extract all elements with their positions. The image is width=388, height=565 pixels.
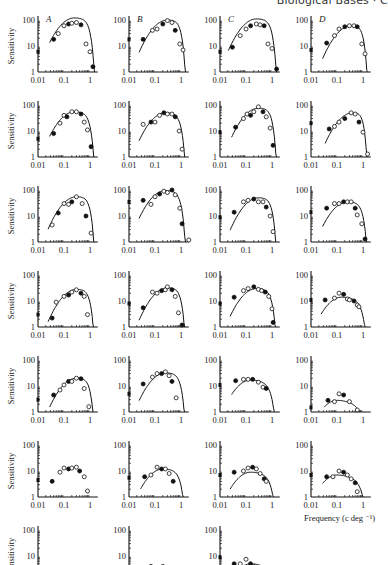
panel-B-5: 1001010.010.11 (113, 355, 189, 425)
data-point-filled (325, 206, 329, 210)
y-tick-label: 10 (209, 211, 218, 221)
y-axis-label: Sensitivity (6, 112, 16, 149)
x-tick-label: 0.1 (241, 415, 252, 425)
y-tick-label: 10 (209, 126, 218, 136)
x-tick-label: 1 (179, 75, 183, 85)
data-point-open (150, 375, 154, 379)
y-tick-label: 10 (118, 41, 127, 51)
data-point-open (153, 120, 157, 124)
data-point-filled (79, 291, 83, 295)
data-point-open (177, 129, 181, 133)
panel-C-5: 1001010.010.11 (204, 355, 280, 425)
data-point-filled (355, 25, 359, 29)
x-tick-label: 0.1 (332, 415, 343, 425)
y-tick-label: 10 (300, 296, 309, 306)
data-point-filled (141, 37, 145, 41)
x-tick-label: 1 (88, 500, 92, 510)
y-tick-label: 100 (22, 185, 35, 195)
data-point-open (163, 467, 167, 471)
data-point-filled (171, 479, 175, 483)
panel-B-7: 1001010.010.11Frequency (c deg ⁻¹) (113, 525, 193, 565)
data-point-filled (52, 37, 56, 41)
fitted-curve (139, 20, 185, 72)
x-tick-label: 0.1 (241, 75, 252, 85)
data-point-filled (323, 298, 327, 302)
data-point-open (355, 490, 359, 494)
x-tick-label: 0.01 (213, 160, 228, 170)
data-point-open (268, 214, 272, 218)
y-tick-label: 10 (209, 551, 218, 561)
data-point-filled (234, 125, 238, 129)
y-tick-label: 10 (118, 381, 127, 391)
x-tick-label: 0.1 (59, 160, 70, 170)
y-tick-label: 100 (204, 440, 217, 450)
data-point-filled (232, 210, 236, 214)
data-point-open (337, 291, 341, 295)
y-tick-label: 100 (113, 185, 126, 195)
data-point-open (85, 128, 89, 132)
data-point-open (360, 42, 364, 46)
data-point-open (70, 466, 74, 470)
data-point-open (337, 469, 341, 473)
data-point-filled (271, 143, 275, 147)
data-point-open (74, 465, 78, 469)
data-point-filled (173, 28, 177, 32)
data-point-open (82, 475, 86, 479)
y-tick-label: 100 (113, 270, 126, 280)
data-point-filled (271, 320, 275, 324)
x-tick-label: 0.01 (213, 75, 228, 85)
x-tick-label: 0.1 (150, 415, 161, 425)
data-point-open (70, 110, 74, 114)
panel-A-2: 1001010.010.11Sensitivity (6, 100, 98, 170)
y-axis-label: Sensitivity (6, 27, 16, 64)
data-point-filled (170, 288, 174, 292)
y-tick-label: 100 (295, 440, 308, 450)
data-point-filled (261, 110, 265, 114)
data-point-filled (219, 130, 222, 134)
data-point-open (158, 113, 162, 117)
data-point-filled (173, 115, 177, 119)
y-axis-label: Sensitivity (6, 197, 16, 234)
x-tick-label: 0.01 (122, 160, 137, 170)
y-tick-label: 10 (209, 41, 218, 51)
data-point-filled (180, 323, 184, 327)
data-point-open (155, 291, 159, 295)
y-tick-label: 10 (118, 126, 127, 136)
y-tick-label: 100 (295, 100, 308, 110)
x-tick-label: 0.01 (31, 160, 46, 170)
data-point-filled (363, 237, 367, 241)
data-point-filled (170, 379, 174, 383)
data-point-filled (310, 48, 313, 52)
data-point-open (332, 34, 336, 38)
y-axis-label: Sensitivity (6, 282, 16, 319)
x-tick-label: 0.01 (122, 500, 137, 510)
y-tick-label: 10 (118, 296, 127, 306)
y-tick-label: 100 (204, 525, 217, 535)
x-tick-label: 0.01 (304, 415, 319, 425)
x-tick-label: 1 (179, 500, 183, 510)
panel-letter: A (45, 14, 52, 24)
data-point-open (347, 298, 351, 302)
fitted-curve (139, 113, 185, 157)
data-point-filled (37, 478, 40, 482)
data-point-open (70, 379, 74, 383)
data-point-open (165, 285, 169, 289)
data-point-open (82, 120, 86, 124)
data-point-filled (310, 121, 313, 125)
panel-letter: B (137, 14, 143, 24)
data-point-open (345, 473, 349, 477)
data-point-open (149, 473, 153, 477)
x-tick-label: 1 (88, 160, 92, 170)
data-point-open (82, 294, 86, 298)
data-point-open (246, 466, 250, 470)
data-point-filled (37, 137, 40, 141)
data-point-open (62, 466, 66, 470)
data-point-open (58, 121, 62, 125)
data-point-filled (252, 197, 256, 201)
panel-B-6: 1001010.010.11 (113, 440, 189, 510)
data-point-open (84, 42, 88, 46)
x-axis-label: Frequency (c deg ⁻¹) (304, 513, 375, 523)
data-point-filled (219, 555, 222, 559)
x-tick-label: 0.1 (241, 245, 252, 255)
y-axis-label: Sensitivity (6, 452, 16, 489)
